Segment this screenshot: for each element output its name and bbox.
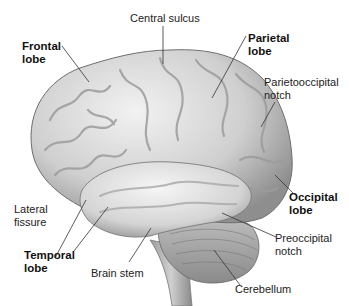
label-central-sulcus: Central sulcus xyxy=(130,12,200,25)
label-cerebellum: Cerebellum xyxy=(235,283,291,296)
label-frontal-lobe: Frontal lobe xyxy=(22,40,61,66)
label-preoccipital-notch: Preoccipital notch xyxy=(275,232,332,258)
label-parietooccipital-notch: Parietooccipital notch xyxy=(264,76,339,102)
label-temporal-lobe: Temporal lobe xyxy=(24,249,75,275)
label-lateral-fissure: Lateral fissure xyxy=(14,203,48,229)
label-occipital-lobe: Occipital lobe xyxy=(289,191,338,217)
label-parietal-lobe: Parietal lobe xyxy=(248,32,290,58)
brain-diagram: Central sulcus Frontal lobe Parietal lob… xyxy=(0,0,349,306)
label-brain-stem: Brain stem xyxy=(91,267,144,280)
